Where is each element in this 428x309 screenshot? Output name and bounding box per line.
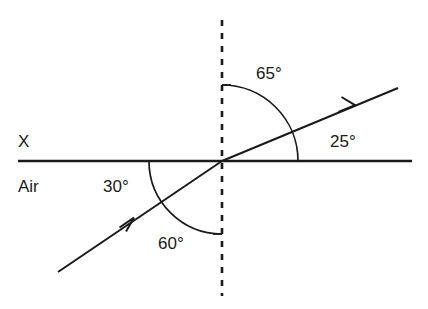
refracted-ray	[222, 88, 398, 161]
angle-arc-60	[149, 161, 222, 234]
angle-label-25: 25°	[330, 132, 356, 151]
medium-label-lower: Air	[18, 177, 39, 196]
medium-label-upper: X	[18, 132, 29, 151]
incident-ray	[58, 161, 222, 272]
angle-arc-65	[222, 85, 298, 161]
angle-label-30: 30°	[103, 177, 129, 196]
angle-label-60: 60°	[158, 234, 184, 253]
optics-diagram-canvas: X Air 65° 25° 30° 60°	[0, 0, 428, 309]
angle-label-65: 65°	[256, 64, 282, 83]
refraction-diagram: X Air 65° 25° 30° 60°	[0, 0, 428, 309]
